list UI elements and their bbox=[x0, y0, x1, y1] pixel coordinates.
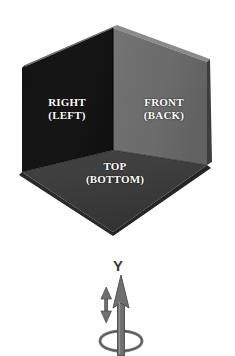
y-axis-shaft bbox=[118, 300, 125, 356]
translation-arrow-icon bbox=[101, 287, 112, 323]
y-axis-label: Y bbox=[100, 258, 136, 273]
diagram-canvas: RIGHT (LEFT) FRONT (BACK) TOP (BOTTOM) Y bbox=[0, 0, 235, 356]
y-axis-arrowhead-icon bbox=[113, 275, 129, 308]
y-axis-gizmo bbox=[0, 0, 235, 356]
